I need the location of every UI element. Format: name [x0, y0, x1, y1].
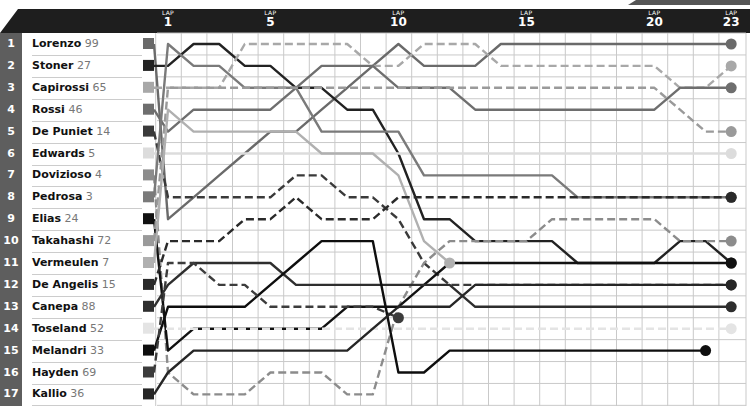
- start-square-icon: [143, 191, 154, 202]
- start-squares: [143, 38, 154, 399]
- finish-dot-icon: [726, 126, 737, 137]
- finish-dot-icon: [726, 323, 737, 334]
- start-square-icon: [143, 38, 154, 49]
- position-lines: [154, 39, 737, 395]
- start-square-icon: [143, 148, 154, 159]
- start-square-icon: [143, 169, 154, 180]
- start-square-icon: [143, 388, 154, 399]
- start-square-icon: [143, 82, 154, 93]
- start-square-icon: [143, 60, 154, 71]
- start-square-icon: [143, 126, 154, 137]
- finish-dot-icon: [444, 258, 455, 269]
- start-square-icon: [143, 104, 154, 115]
- finish-dot-icon: [726, 258, 737, 269]
- finish-dot-icon: [726, 60, 737, 71]
- finish-dot-icon: [700, 345, 711, 356]
- start-square-icon: [143, 367, 154, 378]
- finish-dot-icon: [726, 39, 737, 50]
- finish-dot-icon: [726, 279, 737, 290]
- finish-dot-icon: [726, 192, 737, 203]
- lap-chart: [0, 0, 750, 413]
- start-square-icon: [143, 345, 154, 356]
- finish-dot-icon: [726, 148, 737, 159]
- start-square-icon: [143, 301, 154, 312]
- rider-line: [154, 197, 731, 285]
- start-square-icon: [143, 257, 154, 268]
- start-square-icon: [143, 323, 154, 334]
- finish-dot-icon: [726, 82, 737, 93]
- finish-dot-icon: [726, 301, 737, 312]
- finish-dot-icon: [393, 312, 404, 323]
- finish-dot-icon: [726, 236, 737, 247]
- start-square-icon: [143, 235, 154, 246]
- start-square-icon: [143, 213, 154, 224]
- start-square-icon: [143, 279, 154, 290]
